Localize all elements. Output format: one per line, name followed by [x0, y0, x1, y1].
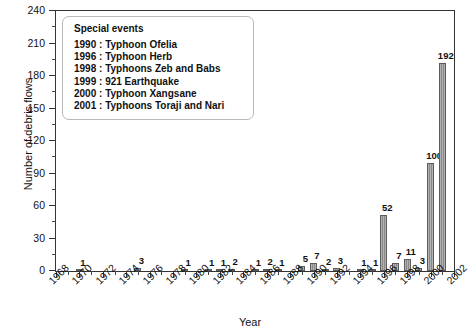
y-axis-tick-major: 60: [49, 205, 56, 206]
y-axis-tick-major: 210: [49, 43, 56, 44]
y-axis-tick-label: 30: [5, 232, 45, 244]
y-axis-tick-label: 150: [5, 102, 45, 114]
y-axis-tick-major: 240: [49, 10, 56, 11]
bar: [427, 163, 434, 271]
bar-value-label: 192: [431, 50, 461, 61]
y-axis-tick-major: 180: [49, 75, 56, 76]
y-axis-tick-label: 120: [5, 134, 45, 146]
y-axis-tick-minor: [52, 221, 56, 222]
y-axis-tick-label: 210: [5, 37, 45, 49]
y-axis-tick-label: 60: [5, 199, 45, 211]
special-events-legend: Special events 1990 : Typhoon Ofelia 199…: [62, 16, 254, 120]
legend-entry: 2001 : Typhoons Toraji and Nari: [74, 100, 244, 112]
legend-entry: 1996 : Typhoon Herb: [74, 51, 244, 63]
y-axis-tick-minor: [52, 26, 56, 27]
y-axis-tick-label: 0: [5, 264, 45, 276]
y-axis-tick-minor: [52, 254, 56, 255]
y-axis-tick-major: 120: [49, 140, 56, 141]
y-axis-tick-label: 240: [5, 4, 45, 16]
y-axis-tick-major: 30: [49, 238, 56, 239]
y-axis-tick-major: 90: [49, 173, 56, 174]
bar: [439, 63, 446, 271]
legend-title: Special events: [74, 23, 244, 34]
y-axis-tick-minor: [52, 91, 56, 92]
y-axis-tick-label: 90: [5, 167, 45, 179]
legend-entry: 1998 : Typhoons Zeb and Babs: [74, 63, 244, 75]
y-axis-tick-minor: [52, 189, 56, 190]
x-axis-title: Year: [40, 316, 460, 328]
y-axis-tick-label: 180: [5, 69, 45, 81]
legend-entry: 1990 : Typhoon Ofelia: [74, 39, 244, 51]
y-axis-tick-major: 150: [49, 108, 56, 109]
bar-value-label: 52: [372, 202, 402, 213]
y-axis-tick-minor: [52, 124, 56, 125]
legend-entry: 1999 : 921 Earthquake: [74, 76, 244, 88]
legend-entry: 2000 : Typhoon Xangsane: [74, 88, 244, 100]
y-axis-tick-minor: [52, 59, 56, 60]
bar: [380, 215, 387, 271]
y-axis-tick-minor: [52, 156, 56, 157]
